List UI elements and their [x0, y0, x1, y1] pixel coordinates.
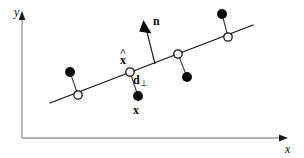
y-axis-arrowhead	[19, 11, 26, 20]
y-axis-label: y	[14, 6, 19, 18]
perpendicular-icon: ⊥	[140, 78, 148, 88]
projection-point-label: ^ x	[120, 54, 126, 66]
normal-vector-label: n	[153, 15, 160, 27]
data-point-label: x	[133, 104, 139, 116]
distance-letter: d	[133, 73, 140, 87]
x-axis-label: x	[285, 143, 290, 155]
data-point-marker	[65, 67, 75, 77]
x-hat-glyph: ^ x	[120, 54, 126, 66]
data-point-marker	[133, 91, 143, 101]
caret-accent-icon: ^	[120, 47, 126, 58]
axes-group	[19, 11, 288, 141]
normal-vector-shaft	[147, 30, 156, 64]
residual-segments-group	[70, 14, 228, 96]
x-axis-arrowhead	[279, 135, 288, 142]
projection-point-marker	[224, 33, 232, 41]
projection-point-marker	[174, 50, 182, 58]
diagram-svg	[0, 0, 304, 158]
projection-point-marker	[74, 91, 82, 99]
figure-canvas: y x n ^ x d⊥ x	[0, 0, 304, 158]
perpendicular-distance-label: d⊥	[133, 74, 148, 88]
data-point-marker	[217, 9, 227, 19]
normal-vector-arrowhead	[139, 20, 151, 34]
data-point-marker	[182, 72, 192, 82]
